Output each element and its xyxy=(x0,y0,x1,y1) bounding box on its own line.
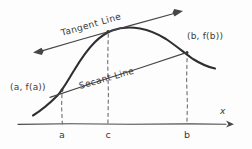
x-axis-group xyxy=(18,121,234,128)
x-axis-label: x xyxy=(219,106,226,116)
mvt-sketch-canvas: Tangent Line Secant Line (a, f(a)) (b, f… xyxy=(0,0,252,149)
dashed-line-b xyxy=(187,52,188,124)
mvt-figure: Tangent Line Secant Line (a, f(a)) (b, f… xyxy=(0,0,252,149)
x-axis-arrowhead xyxy=(226,121,234,128)
dashed-guides-group xyxy=(62,34,188,124)
tick-label-c: c xyxy=(105,129,110,140)
point-c-marker xyxy=(107,30,110,33)
tangent-left-arrowhead xyxy=(33,48,44,55)
tangent-line-label: Tangent Line xyxy=(59,11,122,38)
secant-line-label: Secant Line xyxy=(78,66,136,91)
annotations-group: Tangent Line Secant Line (a, f(a)) (b, f… xyxy=(10,11,226,140)
tick-label-a: a xyxy=(59,129,65,140)
x-axis-line xyxy=(18,124,226,125)
tick-label-b: b xyxy=(184,129,190,140)
point-b-label: (b, f(b)) xyxy=(187,31,223,41)
point-a-label: (a, f(a)) xyxy=(10,82,46,92)
tangent-right-arrowhead xyxy=(173,9,183,17)
point-a-marker xyxy=(61,89,64,92)
point-b-marker xyxy=(186,51,189,54)
